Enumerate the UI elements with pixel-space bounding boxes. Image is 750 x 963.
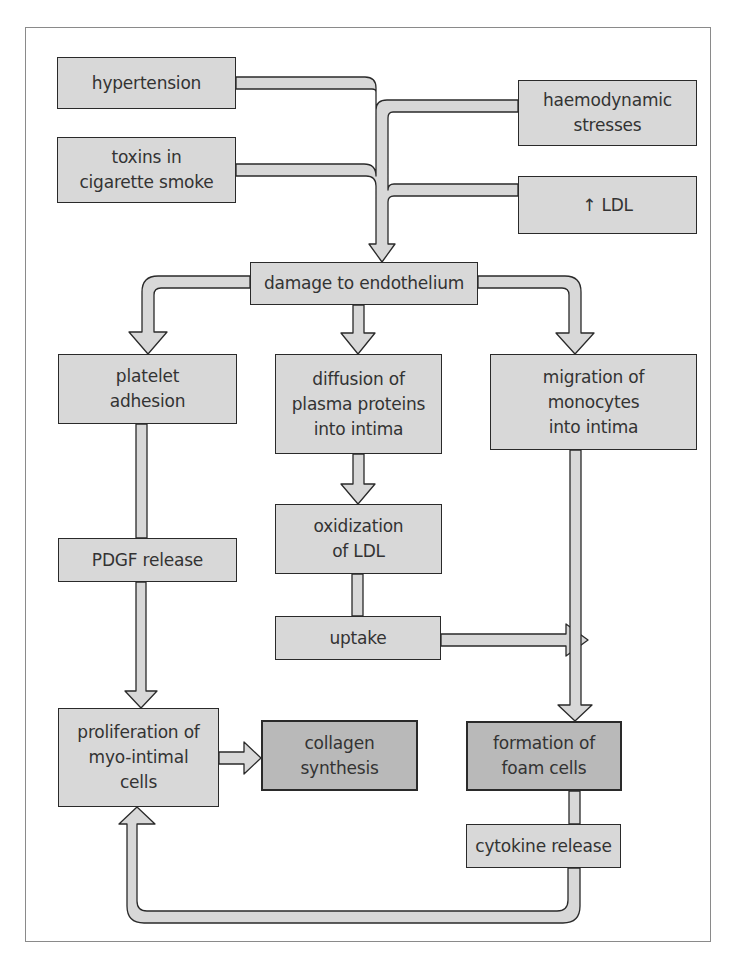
node-oxidization-ldl: oxidization of LDL	[275, 504, 442, 574]
node-collagen-synthesis: collagen synthesis	[261, 720, 418, 791]
arrow-pdgf-to-proliferation	[125, 582, 157, 708]
node-platelet-adhesion: platelet adhesion	[58, 354, 237, 424]
arrow-damage-to-platelet	[129, 276, 250, 354]
arrow-diffusion-to-oxidization	[341, 454, 375, 504]
node-diffusion-plasma-proteins: diffusion of plasma proteins into intima	[275, 354, 442, 454]
node-ldl: ↑ LDL	[518, 176, 697, 234]
node-damage-to-endothelium: damage to endothelium	[250, 262, 478, 305]
arrow-uptake-to-foam	[441, 624, 588, 656]
node-cytokine-release: cytokine release	[466, 824, 621, 868]
node-toxins-cigarette-smoke: toxins in cigarette smoke	[57, 137, 236, 203]
node-proliferation-myo-intimal: proliferation of myo-intimal cells	[58, 708, 219, 807]
node-migration-monocytes: migration of monocytes into intima	[490, 354, 697, 450]
connector-oxidization-uptake	[352, 574, 363, 616]
connector-foam-cytokine	[569, 791, 580, 824]
arrow-inputs-to-damage	[236, 77, 518, 262]
node-hypertension: hypertension	[57, 57, 236, 109]
node-formation-foam-cells: formation of foam cells	[466, 721, 622, 791]
node-uptake: uptake	[275, 616, 441, 660]
connector-platelet-pdgf	[136, 424, 147, 538]
arrow-damage-to-diffusion	[341, 305, 375, 354]
node-haemodynamic-stresses: haemodynamic stresses	[518, 80, 697, 146]
arrow-proliferation-to-collagen	[219, 742, 261, 774]
arrow-damage-to-migration	[478, 276, 594, 354]
node-pdgf-release: PDGF release	[58, 538, 237, 582]
arrow-migration-to-foam	[558, 450, 592, 721]
